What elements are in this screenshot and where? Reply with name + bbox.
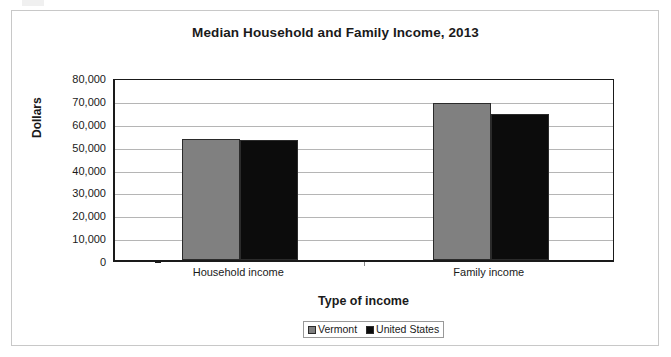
y-axis-title: Dollars — [30, 118, 44, 138]
x-axis-title: Type of income — [113, 294, 614, 308]
legend-swatch-icon-united-states — [366, 326, 374, 334]
y-axis-tick-label: 40,000 — [48, 165, 106, 177]
y-axis-tick-label: 50,000 — [48, 142, 106, 154]
bar-vermont-household-income[interactable] — [182, 139, 240, 260]
y-axis-tick-label: 60,000 — [48, 119, 106, 131]
x-axis-category-label: Family income — [453, 266, 524, 278]
legend-item-vermont[interactable]: Vermont — [308, 324, 357, 335]
x-axis-tick-mark — [364, 262, 365, 266]
y-axis-tick-label: 10,000 — [48, 233, 106, 245]
y-axis-tick-label: 20,000 — [48, 210, 106, 222]
legend-swatch-icon-vermont — [308, 326, 316, 334]
bar-united-states-family-income[interactable] — [491, 114, 549, 260]
scan-artifact — [22, 0, 44, 6]
chart-legend: Vermont United States — [303, 321, 444, 338]
y-axis-tick-label: 80,000 — [48, 73, 106, 85]
legend-label-vermont: Vermont — [318, 324, 357, 335]
bar-vermont-family-income[interactable] — [433, 103, 491, 260]
x-axis-category-label: Household income — [193, 266, 284, 278]
y-axis-tick-mark — [155, 262, 161, 263]
chart-title: Median Household and Family Income, 2013 — [0, 25, 671, 40]
y-axis-tick-label: 70,000 — [48, 96, 106, 108]
legend-label-united-states: United States — [376, 324, 439, 335]
plot-area — [113, 79, 614, 262]
legend-item-united-states[interactable]: United States — [366, 324, 439, 335]
y-axis-tick-label: 0 — [48, 256, 106, 268]
bar-united-states-household-income[interactable] — [240, 140, 298, 260]
y-axis-tick-label: 30,000 — [48, 187, 106, 199]
y-axis-tick-labels: 80,00070,00060,00050,00040,00030,00020,0… — [48, 79, 106, 262]
x-axis-category-labels: Household incomeFamily income — [113, 266, 614, 282]
bars-layer — [115, 80, 613, 260]
